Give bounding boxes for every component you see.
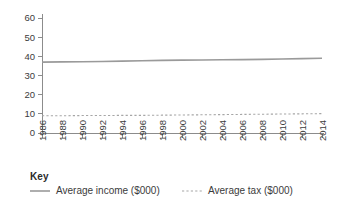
y-tick-label: 0 [30, 127, 35, 138]
x-tick-label: 2008 [257, 120, 268, 141]
x-tick-label: 2010 [277, 120, 288, 141]
y-tick-label: 10 [24, 108, 35, 119]
line-chart-figure: 0102030405060 19861988199019921994199619… [0, 0, 341, 215]
data-series-group [42, 58, 322, 116]
series-line-average-income [42, 58, 322, 62]
x-tick-label: 1994 [117, 120, 128, 141]
x-tick-label: 1998 [157, 120, 168, 141]
x-tick-label: 2014 [317, 120, 328, 141]
x-tick-label: 1990 [77, 120, 88, 141]
x-tick-label: 2012 [297, 120, 308, 141]
legend-item-average-income: Average income ($000) [30, 186, 182, 196]
x-tick-label: 1986 [37, 120, 48, 141]
x-tick-label: 2002 [197, 120, 208, 141]
dashed-line-swatch-icon [182, 186, 202, 196]
y-tick-label: 50 [24, 32, 35, 43]
x-tick-label: 1988 [57, 120, 68, 141]
legend-label-average-tax: Average tax ($000) [208, 186, 293, 196]
legend-title: Key [30, 171, 341, 182]
x-tick-label: 1996 [137, 120, 148, 141]
legend-label-average-income: Average income ($000) [56, 186, 160, 196]
x-tick-label: 2000 [177, 120, 188, 141]
solid-line-swatch-icon [30, 186, 50, 196]
y-tick-label: 20 [24, 89, 35, 100]
y-axis: 0102030405060 [24, 12, 42, 138]
legend-item-average-tax: Average tax ($000) [182, 186, 293, 196]
y-tick-label: 30 [24, 70, 35, 81]
x-tick-label: 1992 [97, 120, 108, 141]
x-axis: 1986198819901992199419961998200020022004… [37, 120, 328, 141]
legend-entries: Average income ($000) Average tax ($000) [30, 186, 341, 196]
y-tick-label: 60 [24, 12, 35, 23]
x-tick-label: 2004 [217, 120, 228, 141]
y-tick-label: 40 [24, 51, 35, 62]
series-line-average-tax [42, 114, 322, 116]
plot-area: 0102030405060 19861988199019921994199619… [0, 0, 341, 180]
x-tick-label: 2006 [237, 120, 248, 141]
chart-legend: Key Average income ($000) Average tax ($… [30, 171, 341, 196]
